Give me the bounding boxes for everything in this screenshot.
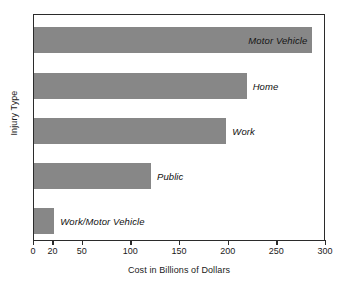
bar-label-motor-vehicle: Motor Vehicle: [248, 35, 307, 46]
bar-home: Home: [34, 73, 247, 99]
x-tick-mark: [33, 240, 34, 245]
x-tick-mark: [130, 240, 131, 245]
x-tick-mark: [52, 240, 53, 245]
y-axis-title: Injury Type: [9, 73, 19, 153]
x-tick-label: 200: [208, 246, 248, 256]
x-tick-label: 250: [256, 246, 296, 256]
x-axis-title: Cost in Billions of Dollars: [33, 265, 325, 275]
x-tick-mark: [179, 240, 180, 245]
x-tick-label: 150: [159, 246, 199, 256]
x-axis: 0 20 50 100 150 200 250 300: [33, 240, 325, 248]
x-tick-label: 50: [62, 246, 102, 256]
bar-label-work-motor-vehicle: Work/Motor Vehicle: [60, 216, 144, 227]
x-tick-mark: [228, 240, 229, 245]
bar-label-work: Work: [232, 126, 255, 137]
x-tick-label: 100: [110, 246, 150, 256]
plot-area: Motor Vehicle Home Work Public Work/Moto…: [33, 14, 325, 241]
x-tick-mark: [325, 240, 326, 245]
bar-work-motor-vehicle: Work/Motor Vehicle: [34, 208, 54, 234]
bar-label-public: Public: [157, 171, 183, 182]
bar-motor-vehicle: Motor Vehicle: [34, 27, 312, 53]
bar-work: Work: [34, 118, 226, 144]
bar-public: Public: [34, 163, 151, 189]
x-tick-mark: [82, 240, 83, 245]
x-tick-label: 300: [305, 246, 345, 256]
x-tick-mark: [276, 240, 277, 245]
bar-label-home: Home: [253, 81, 279, 92]
bar-chart: Injury Type Motor Vehicle Home Work Publ…: [0, 0, 348, 289]
